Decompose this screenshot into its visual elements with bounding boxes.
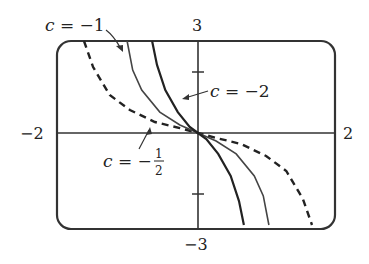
arrowhead-icon [182, 94, 189, 100]
label-c-minus-half: c = − [103, 151, 152, 171]
chart-canvas: −2 2 3 −3 c = −1 c = −2 c = − 1 2 [0, 0, 369, 264]
x-min-label: −2 [20, 124, 44, 143]
label-c-minus-1: c = −1 [45, 15, 105, 35]
x-max-label: 2 [343, 124, 353, 143]
y-max-label: 3 [192, 16, 202, 35]
arrowhead-icon [146, 127, 152, 135]
fraction-denominator: 2 [155, 164, 163, 178]
arrowhead-icon [116, 45, 123, 52]
y-min-label: −3 [184, 235, 208, 254]
fraction-numerator: 1 [155, 147, 163, 161]
plot-frame [57, 41, 335, 229]
label-c-minus-2: c = −2 [210, 81, 270, 101]
